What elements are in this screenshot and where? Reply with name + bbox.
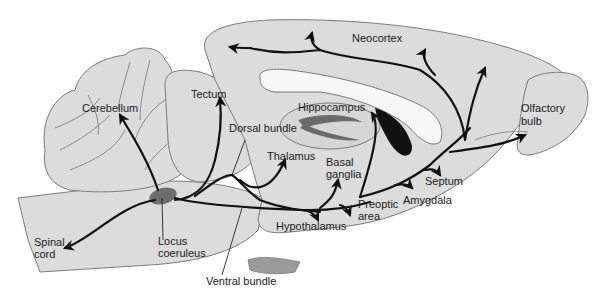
label-olfactory-1: Olfactory — [521, 102, 566, 114]
label-tectum: Tectum — [191, 88, 226, 100]
label-basal-ganglia-2: ganglia — [326, 168, 362, 180]
label-preoptic-2: area — [358, 210, 381, 222]
label-spinal-2: cord — [34, 248, 55, 260]
label-preoptic-1: Preoptic — [358, 198, 399, 210]
label-hippocampus: Hippocampus — [298, 101, 366, 113]
label-locus-2: coeruleus — [158, 247, 206, 259]
label-septum: Septum — [425, 175, 463, 187]
label-ventral-bundle: Ventral bundle — [206, 275, 276, 287]
label-cerebellum: Cerebellum — [82, 102, 138, 114]
label-locus-1: Locus — [158, 235, 188, 247]
cerebellum-region — [44, 48, 185, 192]
label-olfactory-2: bulb — [521, 115, 542, 127]
label-basal-ganglia-1: Basal — [326, 156, 354, 168]
brain-diagram: Neocortex Cerebellum Tectum Hippocampus … — [0, 0, 602, 301]
label-neocortex: Neocortex — [352, 32, 403, 44]
label-dorsal-bundle: Dorsal bundle — [229, 122, 297, 134]
label-spinal-1: Spinal — [34, 236, 65, 248]
label-thalamus: Thalamus — [267, 150, 316, 162]
pituitary-region — [248, 257, 300, 273]
label-amygdala: Amygdala — [403, 194, 453, 206]
label-hypothalamus: Hypothalamus — [276, 220, 347, 232]
